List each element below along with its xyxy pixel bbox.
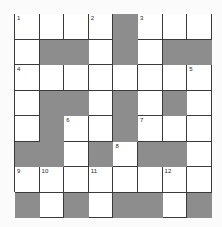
answer-cell[interactable] [89,65,114,91]
black-cell [113,116,138,142]
answer-cell[interactable] [163,193,188,219]
answer-cell[interactable] [89,193,114,219]
answer-cell[interactable] [89,116,114,142]
black-cell [138,193,163,219]
black-cell [113,193,138,219]
black-cell [89,142,114,168]
answer-cell[interactable] [163,14,188,40]
answer-cell[interactable] [187,91,212,117]
black-cell [163,91,188,117]
black-cell [187,193,212,219]
answer-cell[interactable] [113,167,138,193]
black-cell [113,91,138,117]
black-cell [113,40,138,66]
clue-number: 9 [17,168,20,174]
answer-cell[interactable]: 4 [15,65,40,91]
answer-cell[interactable]: 7 [138,116,163,142]
black-cell [64,91,89,117]
black-cell [163,142,188,168]
answer-cell[interactable] [64,142,89,168]
answer-cell[interactable] [15,40,40,66]
answer-cell[interactable] [40,193,65,219]
answer-cell[interactable]: 12 [163,167,188,193]
answer-cell[interactable] [64,14,89,40]
clue-number: 7 [140,117,143,123]
answer-cell[interactable]: 2 [89,14,114,40]
crossword-grid: 123456789101112 [15,14,212,218]
clue-number: 5 [189,66,192,72]
black-cell [40,40,65,66]
clue-number: 6 [66,117,69,123]
clue-number: 10 [42,168,49,174]
answer-cell[interactable] [64,167,89,193]
black-cell [15,142,40,168]
answer-cell[interactable]: 6 [64,116,89,142]
answer-cell[interactable] [138,40,163,66]
answer-cell[interactable] [15,116,40,142]
black-cell [64,40,89,66]
answer-cell[interactable]: 5 [187,65,212,91]
answer-cell[interactable]: 3 [138,14,163,40]
answer-cell[interactable] [138,91,163,117]
black-cell [163,40,188,66]
black-cell [40,91,65,117]
answer-cell[interactable] [138,65,163,91]
answer-cell[interactable]: 10 [40,167,65,193]
answer-cell[interactable] [40,65,65,91]
answer-cell[interactable] [163,65,188,91]
answer-cell[interactable] [187,167,212,193]
answer-cell[interactable]: 1 [15,14,40,40]
black-cell [113,14,138,40]
answer-cell[interactable] [163,116,188,142]
answer-cell[interactable] [187,142,212,168]
black-cell [40,116,65,142]
clue-number: 8 [115,143,118,149]
clue-number: 1 [17,15,20,21]
black-cell [15,193,40,219]
answer-cell[interactable] [187,14,212,40]
black-cell [40,142,65,168]
black-cell [187,40,212,66]
answer-cell[interactable] [15,91,40,117]
clue-number: 4 [17,66,20,72]
answer-cell[interactable] [113,65,138,91]
answer-cell[interactable] [89,40,114,66]
black-cell [64,193,89,219]
clue-number: 11 [91,168,97,174]
answer-cell[interactable]: 8 [113,142,138,168]
answer-cell[interactable] [187,116,212,142]
answer-cell[interactable] [89,91,114,117]
answer-cell[interactable]: 11 [89,167,114,193]
clue-number: 3 [140,15,143,21]
answer-cell[interactable] [40,14,65,40]
clue-number: 12 [165,168,172,174]
answer-cell[interactable] [138,167,163,193]
clue-number: 2 [91,15,94,21]
answer-cell[interactable] [64,65,89,91]
answer-cell[interactable]: 9 [15,167,40,193]
black-cell [138,142,163,168]
